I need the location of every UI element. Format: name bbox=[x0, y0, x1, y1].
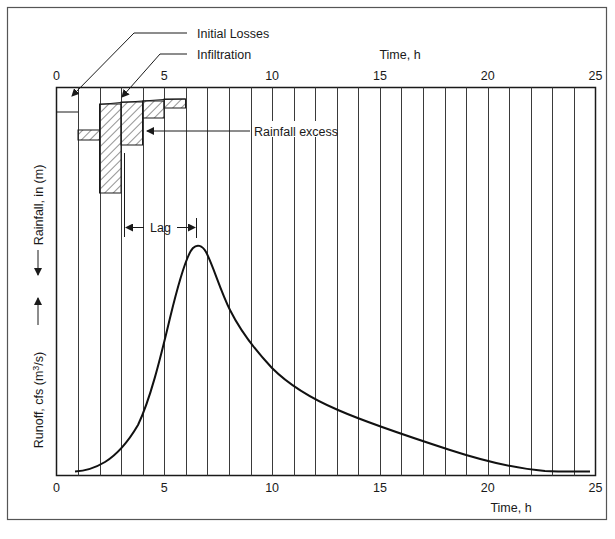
tick-label: 20 bbox=[481, 481, 495, 495]
storm-hydrograph-chart: Lag Initial Losses Infiltration Rainfall… bbox=[0, 0, 615, 539]
lag-label: Lag bbox=[150, 221, 171, 235]
runoff-hydrograph-line bbox=[75, 246, 590, 472]
vertical-gridlines bbox=[79, 88, 575, 476]
tick-label: 15 bbox=[373, 481, 387, 495]
outer-frame bbox=[8, 8, 607, 520]
rainfall-excess-bar-h3 bbox=[100, 104, 122, 193]
infiltration-leader bbox=[122, 54, 187, 97]
rainfall-excess-bar-h2 bbox=[78, 130, 100, 140]
runoff-axis-label: Runoff, cfs (m3/s) bbox=[31, 352, 46, 448]
hyetograph bbox=[57, 99, 186, 193]
tick-label: 15 bbox=[373, 69, 387, 83]
infiltration-label: Infiltration bbox=[197, 48, 251, 62]
rainfall-excess-bar-h6 bbox=[164, 99, 186, 108]
tick-label: 5 bbox=[161, 69, 168, 83]
tick-label: 25 bbox=[589, 69, 603, 83]
plot-area bbox=[57, 88, 596, 476]
rainfall-excess-label: Rainfall excess bbox=[254, 125, 338, 139]
tick-label: 0 bbox=[53, 481, 60, 495]
bottom-axis-ticks: 0510152025 bbox=[53, 481, 602, 495]
tick-label: 10 bbox=[265, 481, 279, 495]
rainfall-excess-bar-h4 bbox=[121, 102, 143, 145]
bottom-axis-title: Time, h bbox=[490, 501, 531, 515]
rainfall-excess-bar-h5 bbox=[143, 101, 165, 118]
top-axis-title: Time, h bbox=[379, 48, 420, 62]
initial-losses-label: Initial Losses bbox=[197, 27, 269, 41]
tick-label: 0 bbox=[53, 69, 60, 83]
initial-losses-leader bbox=[72, 33, 187, 96]
top-axis-ticks: 0510152025 bbox=[53, 69, 602, 83]
tick-label: 10 bbox=[265, 69, 279, 83]
tick-label: 20 bbox=[481, 69, 495, 83]
tick-label: 25 bbox=[589, 481, 603, 495]
tick-label: 5 bbox=[161, 481, 168, 495]
rainfall-axis-label: Rainfall, in (m) bbox=[32, 165, 46, 246]
